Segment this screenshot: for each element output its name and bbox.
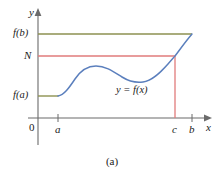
figure-caption: (a) xyxy=(0,155,224,167)
y-axis-arrow-icon xyxy=(35,8,42,16)
y-label-fb: f(b) xyxy=(13,28,28,39)
y-label-N: N xyxy=(24,50,31,61)
plot-canvas xyxy=(0,0,224,175)
curve-equation-label: y = f(x) xyxy=(116,85,148,96)
x-label-c: c xyxy=(172,124,177,135)
y-label-fa: f(a) xyxy=(13,90,28,101)
intermediate-value-theorem-figure: y x 0 f(b) N f(a) a c b y = f(x) (a) xyxy=(0,0,224,175)
origin-label: 0 xyxy=(29,122,35,133)
x-label-a: a xyxy=(55,124,61,135)
y-axis-label: y xyxy=(29,7,34,18)
x-label-b: b xyxy=(189,124,195,135)
x-axis-label: x xyxy=(206,122,211,133)
